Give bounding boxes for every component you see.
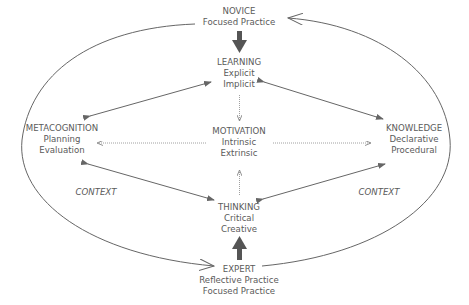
node-knowledge-line: Procedural (386, 145, 442, 156)
bold-arrow-novice-learning (232, 31, 247, 53)
node-thinking-line: Critical (218, 213, 260, 224)
context-label-right: CONTEXT (358, 187, 399, 197)
node-expert: EXPERT Reflective Practice Focused Pract… (199, 264, 278, 297)
node-metacognition-line: Evaluation (26, 145, 99, 156)
node-metacognition-title: METACOGNITION (26, 123, 99, 134)
node-knowledge-line: Declarative (386, 134, 442, 145)
node-expert-line: Focused Practice (199, 286, 278, 297)
context-label-left: CONTEXT (75, 187, 116, 197)
node-thinking: THINKING Critical Creative (218, 202, 260, 235)
node-learning: LEARNING Explicit Implicit (217, 57, 261, 90)
node-thinking-title: THINKING (218, 202, 260, 213)
node-novice-line: Focused Practice (203, 17, 275, 28)
node-learning-line: Explicit (217, 68, 261, 79)
node-learning-line: Implicit (217, 79, 261, 90)
node-motivation-line: Intrinsic (212, 137, 265, 148)
node-motivation-line: Extrinsic (212, 148, 265, 159)
node-novice: NOVICE Focused Practice (203, 6, 275, 28)
node-metacognition: METACOGNITION Planning Evaluation (26, 123, 99, 156)
node-motivation-title: MOTIVATION (212, 126, 265, 137)
node-knowledge: KNOWLEDGE Declarative Procedural (386, 123, 442, 156)
node-expert-title: EXPERT (199, 264, 278, 275)
node-motivation: MOTIVATION Intrinsic Extrinsic (212, 126, 265, 159)
node-expert-line: Reflective Practice (199, 275, 278, 286)
node-learning-title: LEARNING (217, 57, 261, 68)
node-novice-title: NOVICE (203, 6, 275, 17)
bold-arrow-expert-thinking (232, 236, 247, 260)
node-thinking-line: Creative (218, 224, 260, 235)
node-metacognition-line: Planning (26, 134, 99, 145)
node-knowledge-title: KNOWLEDGE (386, 123, 442, 134)
